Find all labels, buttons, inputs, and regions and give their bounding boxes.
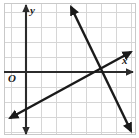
coordinate-graph-figure: y x O <box>0 0 139 138</box>
graph-svg: y x O <box>0 0 139 138</box>
y-axis-label: y <box>28 4 35 16</box>
origin-label: O <box>8 72 16 84</box>
x-axis-label: x <box>121 54 128 66</box>
